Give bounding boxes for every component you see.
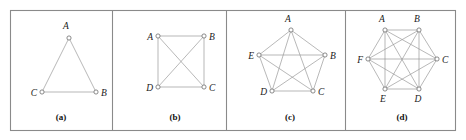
vertex-label-E: E xyxy=(247,51,254,61)
panel-c-edges xyxy=(259,30,325,91)
graph-node-D[interactable] xyxy=(417,87,421,91)
figure-frame xyxy=(11,11,456,131)
panels-group: ABC(a)ABCD(b)ABCDE(c)ABCDEF(d) xyxy=(31,14,449,122)
vertex-label-E: E xyxy=(379,94,386,104)
graph-node-C[interactable] xyxy=(202,85,206,89)
graph-node-C[interactable] xyxy=(40,90,44,94)
panel-b: ABCD(b) xyxy=(145,32,216,122)
graph-edge-CD xyxy=(419,59,437,89)
vertex-label-F: F xyxy=(356,55,363,65)
graph-node-D[interactable] xyxy=(156,85,160,89)
graph-edge-DE xyxy=(259,55,272,91)
vertex-label-B: B xyxy=(101,88,107,98)
panel-a-edges xyxy=(42,38,96,92)
vertex-label-D: D xyxy=(259,87,267,97)
graph-node-D[interactable] xyxy=(270,89,274,93)
panel-a: ABC(a) xyxy=(31,21,107,122)
panel-a-nodes: ABC xyxy=(31,21,107,98)
outer-frame xyxy=(11,11,456,131)
vertex-label-A: A xyxy=(146,32,153,42)
vertex-label-D: D xyxy=(145,83,153,93)
graph-edge-AB xyxy=(69,38,96,92)
vertex-label-C: C xyxy=(442,55,449,65)
graph-node-A[interactable] xyxy=(67,36,71,40)
panel-b-caption: (b) xyxy=(170,112,181,122)
panel-d-caption: (d) xyxy=(397,112,408,122)
graph-edge-BD xyxy=(272,55,325,91)
vertex-label-B: B xyxy=(330,51,336,61)
vertex-label-A: A xyxy=(62,21,69,31)
graph-edge-BC xyxy=(419,30,437,59)
graph-node-E[interactable] xyxy=(383,87,387,91)
figure-canvas: ABC(a)ABCD(b)ABCDE(c)ABCDEF(d) xyxy=(0,0,466,140)
vertex-label-A: A xyxy=(378,14,385,24)
panel-d-edges xyxy=(368,30,437,89)
graph-node-B[interactable] xyxy=(202,34,206,38)
graph-node-A[interactable] xyxy=(289,28,293,32)
panel-a-caption: (a) xyxy=(56,112,67,122)
graph-node-B[interactable] xyxy=(417,28,421,32)
vertex-label-C: C xyxy=(209,83,216,93)
graph-edge-AD xyxy=(272,30,291,91)
graph-edge-AC xyxy=(291,30,313,91)
panel-c-nodes: ABCDE xyxy=(247,14,336,97)
panel-c-caption: (c) xyxy=(285,112,295,122)
vertex-label-D: D xyxy=(414,94,422,104)
graph-edge-AF xyxy=(368,30,385,59)
graph-node-B[interactable] xyxy=(323,53,327,57)
graph-node-A[interactable] xyxy=(383,28,387,32)
graph-node-C[interactable] xyxy=(311,89,315,93)
graph-edge-AE xyxy=(259,30,291,55)
graph-node-F[interactable] xyxy=(366,57,370,61)
vertex-label-C: C xyxy=(31,88,38,98)
panel-c: ABCDE(c) xyxy=(247,14,336,122)
graph-edge-EF xyxy=(368,59,385,89)
complete-graphs-figure: ABC(a)ABCD(b)ABCDE(c)ABCDEF(d) xyxy=(0,0,466,140)
vertex-label-C: C xyxy=(318,87,325,97)
vertex-label-B: B xyxy=(414,14,420,24)
graph-edge-AB xyxy=(291,30,325,55)
graph-edge-BC xyxy=(313,55,325,91)
graph-edge-AC xyxy=(42,38,69,92)
vertex-label-A: A xyxy=(284,14,291,24)
graph-node-A[interactable] xyxy=(156,34,160,38)
graph-node-B[interactable] xyxy=(94,90,98,94)
vertex-label-B: B xyxy=(209,32,215,42)
graph-node-E[interactable] xyxy=(257,53,261,57)
graph-edge-CE xyxy=(259,55,313,91)
panel-d: ABCDEF(d) xyxy=(356,14,449,122)
panel-b-edges xyxy=(158,36,204,87)
graph-node-C[interactable] xyxy=(435,57,439,61)
